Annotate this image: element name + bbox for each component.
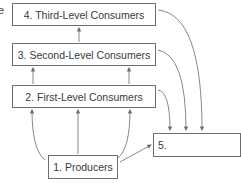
- node-label: 4. Third-Level Consumers: [24, 9, 145, 21]
- node-producers: 1. Producers: [48, 155, 118, 179]
- node-label: 1. Producers: [53, 161, 113, 173]
- node-label: 5.: [158, 139, 167, 151]
- node-decomposers-blank: 5.: [153, 133, 241, 157]
- node-third-level-consumers: 4. Third-Level Consumers: [12, 3, 156, 26]
- node-first-level-consumers: 2. First-Level Consumers: [12, 85, 156, 108]
- node-label: 3. Second-Level Consumers: [18, 49, 151, 61]
- node-second-level-consumers: 3. Second-Level Consumers: [12, 43, 156, 66]
- node-label: 2. First-Level Consumers: [25, 91, 142, 103]
